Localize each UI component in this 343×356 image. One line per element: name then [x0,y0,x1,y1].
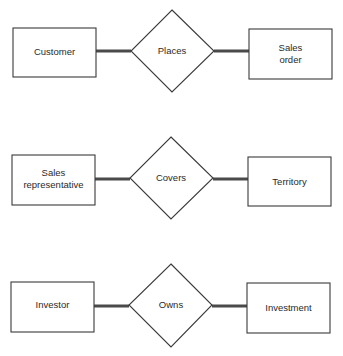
entity-label-sales-order-line1: Sales [279,42,303,53]
entity-label-customer: Customer [34,46,75,57]
entity-label-sales-order-line2: order [279,54,301,65]
relationship-label-places: Places [158,45,187,56]
entity-label-territory: Territory [272,176,307,187]
entity-label-sales-rep-line2: representative [23,179,83,190]
relationship-label-owns: Owns [159,299,184,310]
entity-label-investor: Investor [36,299,70,310]
relationship-label-covers: Covers [156,172,186,183]
er-row-customer-places-sales-order: Customer Places Sales order [13,10,332,92]
entity-label-investment: Investment [265,302,312,313]
er-row-investor-owns-investment: Investor Owns Investment [11,264,330,347]
entity-label-sales-rep-line1: Sales [42,167,66,178]
er-diagram: Customer Places Sales order Sales repres… [0,0,343,356]
er-row-sales-rep-covers-territory: Sales representative Covers Territory [12,137,331,219]
